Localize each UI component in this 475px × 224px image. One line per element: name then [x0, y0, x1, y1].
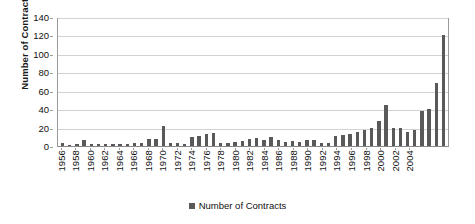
bar: [241, 141, 244, 146]
bar-slot: [217, 18, 224, 146]
x-tick-label: 1960: [84, 150, 95, 172]
x-tick-label: 1956: [55, 150, 66, 172]
x-tick-label: 1964: [113, 150, 124, 172]
bar: [392, 128, 395, 146]
y-tick-label: 120: [33, 32, 49, 42]
bar: [190, 137, 193, 146]
bar-slot: [124, 18, 131, 146]
y-tick-label: 0: [44, 142, 49, 152]
y-tick-label: 100: [33, 50, 49, 60]
bar: [291, 141, 294, 146]
bar-slot: [109, 18, 116, 146]
bar-slot: [404, 18, 411, 146]
bar: [348, 134, 351, 146]
x-tick-label: 2000: [375, 150, 386, 172]
bar-slot: [253, 18, 260, 146]
bar: [298, 142, 301, 146]
x-tick-label: 1958: [70, 150, 81, 172]
x-tick-label: 1968: [142, 150, 153, 172]
y-tick-label: 60: [38, 87, 49, 97]
bar-slot: [397, 18, 404, 146]
bar-slot: [66, 18, 73, 146]
bar: [205, 134, 208, 146]
bar-slot: [239, 18, 246, 146]
bar-slot: [167, 18, 174, 146]
bar-slot: [411, 18, 418, 146]
bar-slot: [282, 18, 289, 146]
y-tick-label: 40: [38, 105, 49, 115]
bar: [176, 143, 179, 146]
bar: [82, 140, 85, 146]
bar-slot: [88, 18, 95, 146]
bar-slot: [95, 18, 102, 146]
bar-slot: [332, 18, 339, 146]
x-axis-labels: 1956195819601962196419661968197019721974…: [57, 148, 449, 196]
bar: [370, 128, 373, 146]
x-tick-label: 1986: [273, 150, 284, 172]
bar: [90, 144, 93, 146]
bar-slot: [275, 18, 282, 146]
bar: [133, 143, 136, 146]
bar: [126, 144, 129, 146]
bar-slot: [138, 18, 145, 146]
bar: [97, 144, 100, 146]
bar-slot: [174, 18, 181, 146]
bar-chart: Number of Contracts 020406080100120140 1…: [0, 0, 475, 224]
bar: [363, 130, 366, 146]
bar-slot: [375, 18, 382, 146]
bar-slot: [303, 18, 310, 146]
bar: [226, 143, 229, 146]
bar-slot: [232, 18, 239, 146]
x-tick-label: 1976: [200, 150, 211, 172]
bar: [212, 133, 215, 146]
bars-layer: [58, 18, 448, 146]
bar: [162, 126, 165, 146]
bar: [356, 132, 359, 146]
y-tick-mark: [50, 36, 53, 37]
bar: [111, 144, 114, 146]
bar: [118, 144, 121, 146]
bar-slot: [131, 18, 138, 146]
bar-slot: [347, 18, 354, 146]
bar-slot: [318, 18, 325, 146]
bar-slot: [339, 18, 346, 146]
y-tick-label: 140: [33, 13, 49, 23]
bar: [320, 143, 323, 146]
x-tick-label: 1982: [244, 150, 255, 172]
x-tick-label: 1996: [346, 150, 357, 172]
bar: [442, 35, 445, 146]
bar-slot: [390, 18, 397, 146]
x-tick-label: 1980: [229, 150, 240, 172]
bar: [61, 143, 64, 146]
bar: [233, 142, 236, 146]
bar-slot: [433, 18, 440, 146]
bar: [183, 144, 186, 146]
bar: [312, 140, 315, 146]
bar-slot: [188, 18, 195, 146]
bar: [377, 121, 380, 146]
x-tick-label: 1974: [186, 150, 197, 172]
bar-slot: [160, 18, 167, 146]
bar-slot: [117, 18, 124, 146]
bar-slot: [296, 18, 303, 146]
bar: [219, 143, 222, 146]
y-tick-mark: [50, 129, 53, 130]
bar-slot: [81, 18, 88, 146]
y-tick-mark: [50, 18, 53, 19]
y-tick-mark: [50, 73, 53, 74]
bar: [420, 111, 423, 146]
bar-slot: [426, 18, 433, 146]
bar-slot: [224, 18, 231, 146]
bar: [68, 145, 71, 146]
chart-legend: Number of Contracts: [0, 200, 475, 211]
y-tick-label: 80: [38, 69, 49, 79]
bar-slot: [210, 18, 217, 146]
bar: [269, 137, 272, 146]
x-tick-label: 1990: [302, 150, 313, 172]
bar-slot: [325, 18, 332, 146]
bar-slot: [246, 18, 253, 146]
bar: [104, 144, 107, 146]
bar-slot: [267, 18, 274, 146]
x-tick-label: 1962: [99, 150, 110, 172]
bar-slot: [260, 18, 267, 146]
